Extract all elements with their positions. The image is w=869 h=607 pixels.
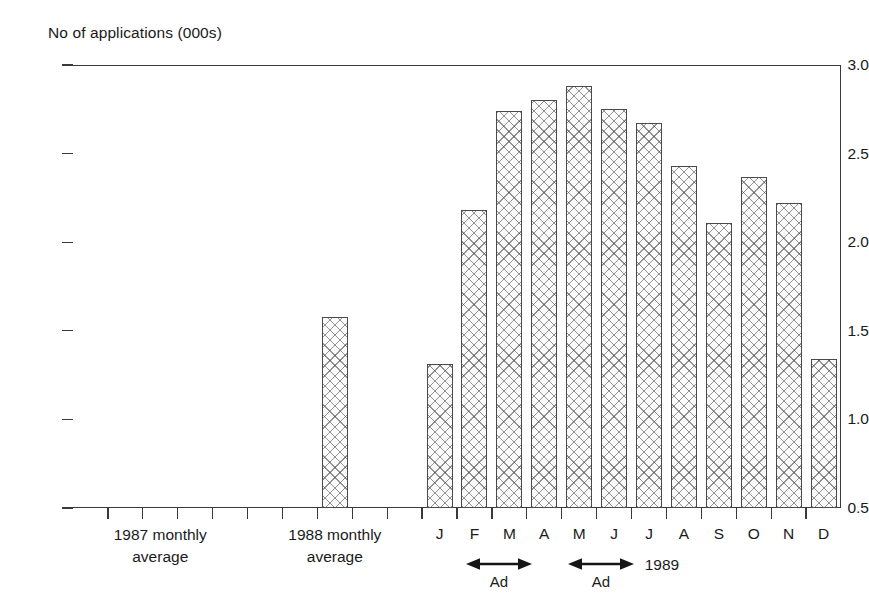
ad-annotation-1-label: Ad (466, 573, 532, 590)
x-category-label: 1987 monthlyaverage (80, 524, 240, 568)
x-tick (317, 508, 318, 519)
bar (566, 86, 592, 508)
bar (601, 109, 627, 508)
x-tick (596, 508, 597, 519)
x-tick (805, 508, 806, 519)
y-tick (62, 507, 73, 508)
x-tick (526, 508, 527, 519)
bar (427, 364, 453, 508)
x-tick (282, 508, 283, 519)
y-tick (62, 330, 73, 331)
y-tick-label: 3.0 (823, 56, 869, 74)
bar (741, 177, 767, 508)
bar (531, 100, 557, 508)
bar-chart: No of applications (000s) 3.02.52.01.51.… (0, 0, 869, 607)
x-month-label: D (804, 524, 844, 544)
y-tick (62, 153, 73, 154)
x-tick (352, 508, 353, 519)
x-tick (421, 508, 422, 519)
x-tick (701, 508, 702, 519)
bar (636, 123, 662, 508)
x-category-label-line1: 1988 monthly (255, 524, 415, 546)
bar (461, 210, 487, 508)
ad-annotation-2-label: Ad (568, 573, 634, 590)
x-tick (491, 508, 492, 519)
year-label-1989: 1989 (625, 556, 699, 574)
y-tick (62, 64, 73, 65)
bar (776, 203, 802, 508)
y-tick (62, 419, 73, 420)
x-tick (247, 508, 248, 519)
x-tick (631, 508, 632, 519)
x-tick (177, 508, 178, 519)
bar (322, 317, 348, 508)
y-tick (62, 242, 73, 243)
x-category-label-line2: average (255, 546, 415, 568)
x-tick (771, 508, 772, 519)
y-axis-title: No of applications (000s) (48, 24, 222, 42)
x-category-label-line1: 1987 monthly (80, 524, 240, 546)
y-tick-label: 2.0 (823, 233, 869, 251)
bar (706, 223, 732, 508)
bar (496, 111, 522, 508)
x-tick (142, 508, 143, 519)
x-category-label-line2: average (80, 546, 240, 568)
x-tick (107, 508, 108, 519)
bar (671, 166, 697, 508)
x-category-label: 1988 monthlyaverage (255, 524, 415, 568)
x-tick (561, 508, 562, 519)
x-tick (212, 508, 213, 519)
bar (811, 359, 837, 508)
x-tick (736, 508, 737, 519)
y-tick-label: 2.5 (823, 145, 869, 163)
x-tick (666, 508, 667, 519)
y-tick-label: 1.5 (823, 322, 869, 340)
x-tick (456, 508, 457, 519)
x-tick (387, 508, 388, 519)
double-arrow-icon (466, 556, 532, 572)
